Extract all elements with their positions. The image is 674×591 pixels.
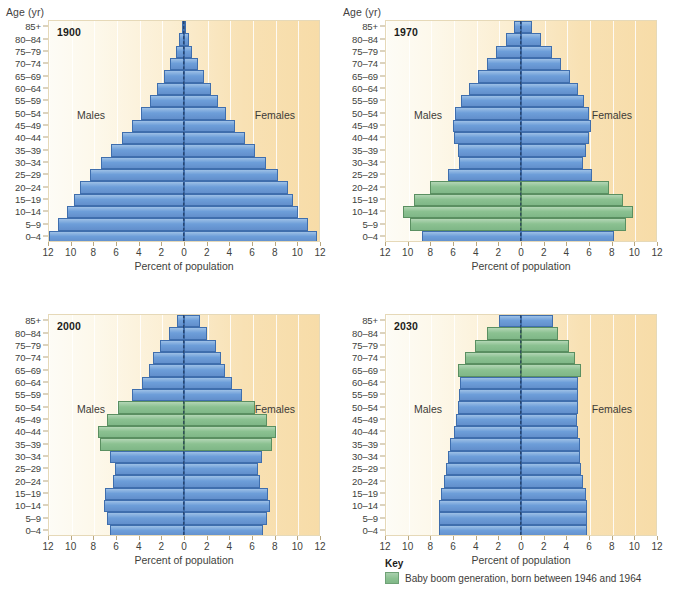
y-axis-label: 40–44 (352, 426, 378, 437)
x-axis-tick (476, 536, 477, 540)
x-axis-label: 6 (586, 541, 592, 552)
bar-females (184, 46, 192, 58)
y-axis-label: 20–24 (15, 475, 41, 486)
x-axis-label: 2 (541, 541, 547, 552)
zero-axis-line (520, 21, 521, 241)
x-axis-label: 8 (272, 541, 278, 552)
plot-area: 1970MalesFemales (385, 20, 657, 242)
x-axis-tick (634, 536, 635, 540)
x-axis-tick (408, 536, 409, 540)
bar-males (455, 107, 521, 119)
bar-females (184, 95, 218, 107)
y-axis: 0–45–910–1415–1920–2425–2930–3435–3940–4… (337, 314, 385, 536)
y-axis-label: 40–44 (15, 426, 41, 437)
x-axis-tick (453, 242, 454, 246)
bar-males (104, 500, 184, 512)
x-axis-label: 12 (42, 541, 53, 552)
y-axis-label: 50–54 (352, 401, 378, 412)
males-label: Males (414, 109, 442, 121)
bar-females (184, 426, 276, 438)
y-axis-label: 50–54 (15, 107, 41, 118)
y-axis-label: 70–74 (15, 352, 41, 363)
bar-females (521, 500, 587, 512)
bar-males (475, 340, 521, 352)
x-axis-label: 10 (629, 247, 640, 258)
x-axis-tick (657, 536, 658, 540)
x-axis-label: 2 (541, 247, 547, 258)
bar-males (450, 438, 521, 450)
bar-males (487, 58, 521, 70)
bar-males (67, 206, 184, 218)
y-axis-label: 0–4 (362, 230, 378, 241)
x-axis-tick (161, 242, 162, 246)
x-axis-label: 0 (181, 541, 187, 552)
x-axis-label: 8 (91, 247, 97, 258)
y-axis: 0–45–910–1415–1920–2425–2930–3435–3940–4… (0, 20, 48, 242)
bar-females (184, 194, 293, 206)
x-axis-label: 4 (227, 247, 233, 258)
y-axis-label: 35–39 (15, 438, 41, 449)
bar-females (184, 525, 263, 536)
bar-females (521, 194, 623, 206)
y-axis-label: 25–29 (15, 463, 41, 474)
x-axis-label: 2 (159, 541, 165, 552)
bar-males (110, 525, 184, 536)
bar-males (439, 512, 521, 524)
x-axis-label: 10 (402, 541, 413, 552)
x-axis-tick (566, 536, 567, 540)
bar-females (521, 169, 592, 181)
bar-males (478, 70, 521, 82)
bar-males (118, 401, 184, 413)
x-axis-tick (320, 536, 321, 540)
bar-males (164, 70, 184, 82)
bar-females (521, 181, 609, 193)
bar-females (521, 33, 541, 45)
x-axis-tick (634, 242, 635, 246)
y-axis-label: 60–64 (352, 376, 378, 387)
bar-males (110, 451, 184, 463)
bar-females (521, 58, 561, 70)
y-axis: 0–45–910–1415–1920–2425–2930–3435–3940–4… (0, 314, 48, 536)
y-axis-label: 20–24 (352, 181, 378, 192)
x-axis-tick (48, 536, 49, 540)
x-axis-label: 10 (292, 247, 303, 258)
bar-males (439, 500, 521, 512)
bar-males (487, 327, 521, 339)
y-axis-label: 70–74 (352, 58, 378, 69)
y-axis-label: 55–59 (15, 95, 41, 106)
x-axis-tick (93, 242, 94, 246)
y-axis-label: 80–84 (15, 33, 41, 44)
x-axis-tick (275, 242, 276, 246)
bar-males (448, 451, 521, 463)
y-axis-label: 55–59 (15, 389, 41, 400)
x-axis-tick (589, 536, 590, 540)
x-axis-tick (275, 536, 276, 540)
bar-females (521, 340, 569, 352)
x-axis-label: 0 (181, 247, 187, 258)
panel-year-label: 2030 (394, 320, 418, 332)
bar-females (521, 144, 586, 156)
x-axis-label: 10 (65, 247, 76, 258)
y-axis-label: 5–9 (362, 512, 378, 523)
y-axis-label: 10–14 (15, 500, 41, 511)
bar-females (184, 352, 221, 364)
plot-area: 1900MalesFemales (48, 20, 320, 242)
bar-males (111, 144, 184, 156)
bar-males (160, 340, 184, 352)
x-axis-label: 4 (136, 247, 142, 258)
bar-males (74, 194, 184, 206)
bar-males (454, 132, 521, 144)
x-axis-label: 6 (113, 247, 119, 258)
x-axis-tick (71, 242, 72, 246)
bar-females (521, 46, 552, 58)
x-axis-tick (320, 242, 321, 246)
y-axis-label: 65–69 (15, 364, 41, 375)
bar-females (521, 132, 589, 144)
x-axis-tick (229, 536, 230, 540)
y-axis-label: 80–84 (15, 327, 41, 338)
bar-females (184, 463, 258, 475)
bar-females (184, 315, 200, 327)
x-axis-label: 4 (473, 541, 479, 552)
x-axis-tick (453, 536, 454, 540)
bar-males (153, 352, 184, 364)
